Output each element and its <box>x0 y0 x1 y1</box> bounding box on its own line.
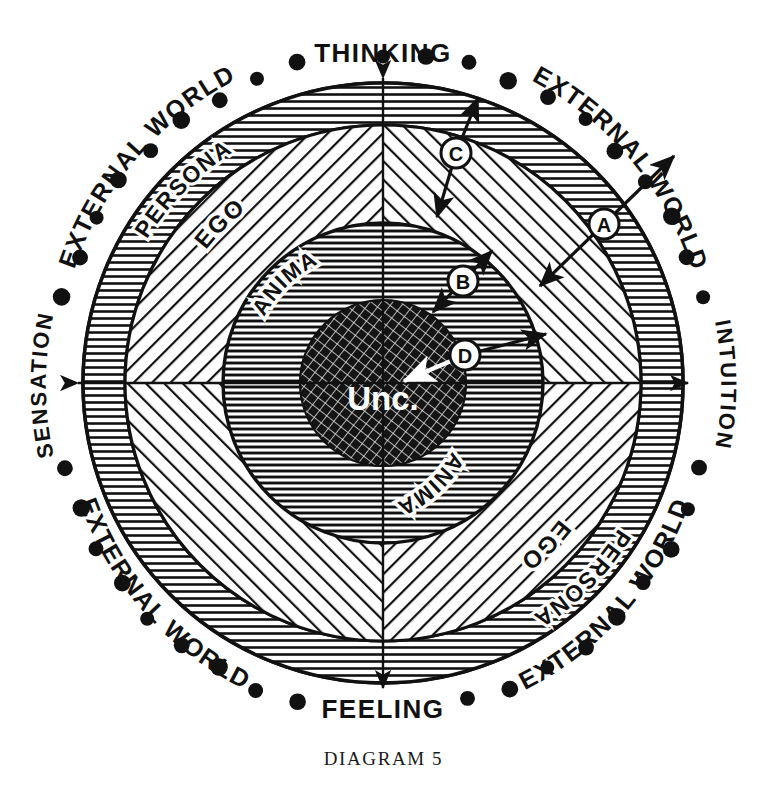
figure-caption: DIAGRAM 5 <box>0 748 767 770</box>
external-world-dot <box>501 681 518 698</box>
axis-label-feeling: FEELING <box>321 694 444 724</box>
marker-badge-c-label: C <box>449 143 463 165</box>
axis-label-thinking: THINKING <box>314 38 452 68</box>
marker-badge-c[interactable]: C <box>441 138 471 168</box>
marker-badge-a-label: A <box>597 214 611 236</box>
external-world-dot <box>57 460 73 476</box>
marker-badge-b[interactable]: B <box>448 266 478 296</box>
external-world-dot <box>289 54 306 71</box>
unconscious-label: Unc. <box>347 380 419 417</box>
external-world-dot <box>462 55 477 70</box>
external-world-dot <box>460 691 475 706</box>
marker-badge-b-label: B <box>456 271 470 293</box>
diagram-canvas: THINKING FEELING SENSATION INTUITION EXT… <box>0 0 767 792</box>
marker-badge-a[interactable]: A <box>589 209 619 239</box>
external-world-dot <box>499 72 517 90</box>
external-world-dot <box>53 288 71 306</box>
marker-badge-d-label: D <box>458 345 472 367</box>
external-world-dot <box>696 290 710 304</box>
psyche-diagram: THINKING FEELING SENSATION INTUITION EXT… <box>0 0 767 792</box>
external-world-dot <box>289 693 306 710</box>
external-world-dot <box>250 72 264 86</box>
external-world-dot <box>248 683 263 698</box>
marker-badge-d[interactable]: D <box>450 340 480 370</box>
external-world-dot <box>691 460 707 476</box>
